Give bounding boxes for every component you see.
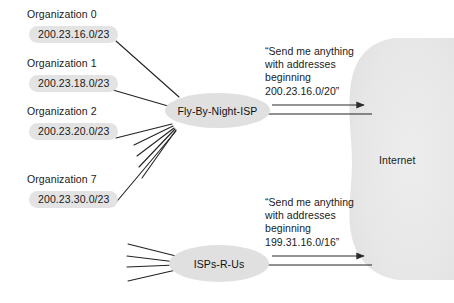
organization-1-prefix: 200.23.18.0/23 [29, 75, 118, 92]
organization-2-name: Organization 2 [27, 105, 97, 117]
organization-1-name: Organization 1 [27, 57, 97, 69]
advertisement-isps-r-us-line-4: 199.31.16.0/16” [265, 236, 354, 249]
advertisement-isps-r-us-line-1: “Send me anything [265, 196, 354, 209]
isps-r-us-fan-line-1 [128, 244, 176, 256]
isp-node-fly-by-night[interactable]: Fly-By-Night-ISP [165, 93, 270, 128]
isp-node-fly-by-night-label: Fly-By-Night-ISP [178, 105, 258, 117]
ellipsis-line-2 [137, 128, 174, 156]
organization-0-prefix: 200.23.16.0/23 [29, 26, 118, 43]
advertisement-fly-by-night-line-4: 200.23.16.0/20” [265, 85, 354, 98]
link-org7-isp [113, 131, 176, 206]
advertisement-fly-by-night-line-3: beginning [265, 71, 354, 84]
organization-0-name: Organization 0 [27, 8, 97, 20]
advertisement-fly-by-night-line-1: “Send me anything [265, 45, 354, 58]
advertisement-text-isps-r-us: “Send me anything with addresses beginni… [265, 196, 354, 249]
organization-7-name: Organization 7 [27, 173, 97, 185]
internet-cloud-label: Internet [379, 154, 415, 166]
ellipsis-line-4 [142, 130, 176, 178]
ellipsis-line-3 [139, 129, 175, 167]
advertisement-text-fly-by-night: “Send me anything with addresses beginni… [265, 45, 354, 98]
isp-node-isps-r-us-label: ISPs-R-Us [194, 258, 244, 270]
organization-2-prefix: 200.23.20.0/23 [29, 123, 118, 140]
organization-7-prefix: 200.23.30.0/23 [29, 191, 118, 208]
network-diagram: Organization 0 200.23.16.0/23 Organizati… [0, 0, 454, 303]
isp-node-isps-r-us[interactable]: ISPs-R-Us [169, 245, 269, 282]
isps-r-us-fan-line-4 [128, 270, 176, 281]
link-org0-isp [116, 41, 179, 97]
advertisement-fly-by-night-line-2: with addresses [265, 58, 354, 71]
link-org1-isp [113, 90, 168, 106]
advertisement-isps-r-us-line-2: with addresses [265, 209, 354, 222]
advertisement-isps-r-us-line-3: beginning [265, 222, 354, 235]
